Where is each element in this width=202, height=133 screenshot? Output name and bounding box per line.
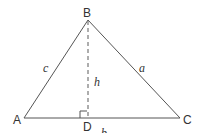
side-c-line: [24, 20, 88, 118]
side-a-line: [88, 20, 180, 118]
side-label-a: a: [139, 61, 145, 75]
triangle-diagram: B A C D c a h b: [0, 0, 202, 133]
side-label-b: b: [101, 126, 107, 133]
right-angle-marker: [80, 111, 87, 118]
vertex-label-c: C: [183, 113, 192, 127]
vertex-label-a: A: [13, 113, 21, 127]
vertex-label-d: D: [83, 120, 92, 133]
altitude-label-h: h: [94, 75, 100, 89]
vertex-label-b: B: [83, 6, 91, 20]
side-label-c: c: [43, 61, 49, 75]
